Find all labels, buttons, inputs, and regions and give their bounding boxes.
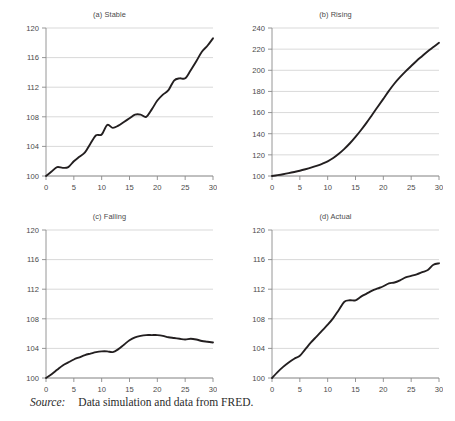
x-tick-label: 15 (351, 183, 359, 192)
x-tick-label: 25 (181, 183, 189, 192)
y-tick-label: 160 (252, 108, 265, 117)
x-tick-label: 30 (435, 183, 443, 192)
series-line (46, 335, 213, 378)
x-tick-label: 25 (407, 385, 415, 394)
x-tick-label: 20 (153, 183, 161, 192)
x-tick-label: 10 (97, 385, 105, 394)
x-tick-label: 20 (153, 385, 161, 394)
x-tick-label: 15 (351, 385, 359, 394)
series-line (272, 43, 439, 176)
panel-d-title: (d) Actual (228, 212, 443, 221)
y-tick-label: 116 (253, 255, 265, 264)
x-tick-label: 30 (209, 183, 217, 192)
y-tick-label: 140 (252, 130, 265, 139)
x-tick-label: 10 (323, 183, 331, 192)
y-tick-label: 240 (252, 24, 265, 33)
chart-panel-c-falling: (c) Falling 1001041081121161200510152025… (2, 212, 217, 407)
source-note: Source:Data simulation and data from FRE… (30, 396, 450, 408)
y-tick-label: 116 (27, 53, 39, 62)
y-tick-label: 104 (26, 142, 39, 151)
x-tick-label: 20 (379, 385, 387, 394)
y-tick-label: 120 (252, 151, 265, 160)
y-tick-label: 120 (252, 226, 265, 235)
x-tick-label: 15 (125, 385, 133, 394)
x-tick-label: 20 (379, 183, 387, 192)
x-tick-label: 25 (407, 183, 415, 192)
y-tick-label: 100 (26, 374, 39, 383)
y-tick-label: 100 (252, 172, 265, 181)
y-tick-label: 116 (27, 255, 39, 264)
panel-d-plot: 100104108112116120051015202530 (228, 224, 443, 404)
y-tick-label: 104 (252, 344, 265, 353)
y-tick-label: 100 (26, 172, 39, 181)
x-tick-label: 10 (97, 183, 105, 192)
y-tick-label: 180 (252, 87, 265, 96)
source-note-label: Source: (30, 396, 65, 408)
chart-panel-d-actual: (d) Actual 10010410811211612005101520253… (228, 212, 443, 407)
y-tick-label: 108 (26, 315, 39, 324)
source-note-text: Data simulation and data from FRED. (78, 396, 253, 408)
panel-b-plot: 100120140160180200220240051015202530 (228, 22, 443, 202)
y-tick-label: 120 (26, 226, 39, 235)
y-tick-label: 112 (253, 285, 265, 294)
x-tick-label: 5 (72, 385, 76, 394)
x-tick-label: 25 (181, 385, 189, 394)
x-tick-label: 0 (44, 183, 48, 192)
x-tick-label: 0 (44, 385, 48, 394)
x-tick-label: 5 (298, 385, 302, 394)
x-tick-label: 0 (270, 385, 274, 394)
x-tick-label: 15 (125, 183, 133, 192)
panel-c-title: (c) Falling (2, 212, 217, 221)
figure-panel-grid: (a) Stable 10010410811211612005101520253… (0, 0, 455, 421)
y-tick-label: 220 (252, 45, 265, 54)
series-line (272, 263, 439, 378)
x-tick-label: 0 (270, 183, 274, 192)
chart-panel-b-rising: (b) Rising 10012014016018020022024005101… (228, 10, 443, 205)
panel-a-title: (a) Stable (2, 10, 217, 19)
y-tick-label: 108 (252, 315, 265, 324)
x-tick-label: 5 (298, 183, 302, 192)
x-tick-label: 30 (435, 385, 443, 394)
y-tick-label: 112 (27, 285, 39, 294)
series-line (46, 38, 213, 176)
y-tick-label: 108 (26, 113, 39, 122)
panel-b-title: (b) Rising (228, 10, 443, 19)
chart-panel-a-stable: (a) Stable 10010410811211612005101520253… (2, 10, 217, 205)
x-tick-label: 30 (209, 385, 217, 394)
y-tick-label: 200 (252, 66, 265, 75)
y-tick-label: 112 (27, 83, 39, 92)
x-tick-label: 5 (72, 183, 76, 192)
y-tick-label: 104 (26, 344, 39, 353)
x-tick-label: 10 (323, 385, 331, 394)
panel-a-plot: 100104108112116120051015202530 (2, 22, 217, 202)
panel-c-plot: 100104108112116120051015202530 (2, 224, 217, 404)
y-tick-label: 100 (252, 374, 265, 383)
y-tick-label: 120 (26, 24, 39, 33)
